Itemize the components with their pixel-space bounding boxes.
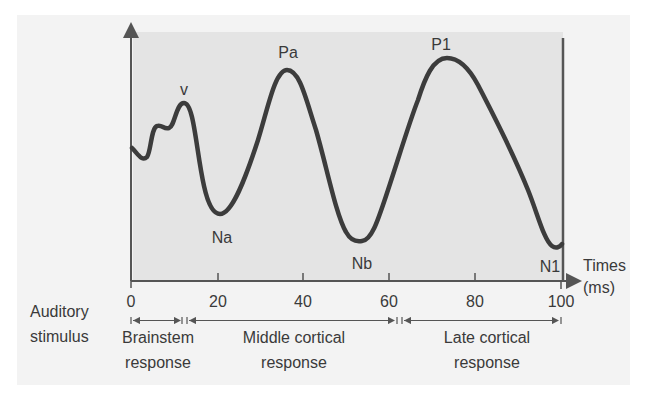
tick-label-60: 60 <box>380 294 398 310</box>
peak-label-v: v <box>180 82 188 98</box>
region-late-line1: Late cortical <box>444 330 530 346</box>
tick-label-100: 100 <box>548 294 575 310</box>
tick-label-20: 20 <box>209 294 227 310</box>
tick-label-0: 0 <box>127 294 136 310</box>
peak-label-p1: P1 <box>431 37 451 53</box>
trough-label-na: Na <box>212 230 232 246</box>
region-brackets <box>131 317 561 324</box>
peak-label-pa: Pa <box>278 45 298 61</box>
x-axis-title-line2: (ms) <box>583 280 615 296</box>
stimulus-label-line2: stimulus <box>30 329 89 345</box>
region-brainstem-line2: response <box>125 355 191 371</box>
region-brainstem-line1: Brainstem <box>122 330 194 346</box>
trough-label-nb: Nb <box>352 256 372 272</box>
stimulus-label-line1: Auditory <box>30 304 89 320</box>
tick-label-80: 80 <box>466 294 484 310</box>
trough-label-n1: N1 <box>540 259 560 275</box>
tick-label-40: 40 <box>294 294 312 310</box>
region-middle-line1: Middle cortical <box>243 330 345 346</box>
region-late-line2: response <box>454 355 520 371</box>
region-middle-line2: response <box>261 355 327 371</box>
x-axis-title-line1: Times <box>583 258 626 274</box>
